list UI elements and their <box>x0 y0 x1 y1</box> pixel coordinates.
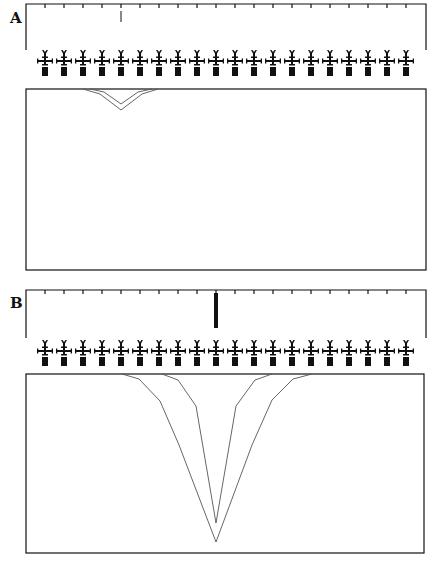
receptor-glyph-icon <box>379 340 395 366</box>
receptor-glyph-icon <box>303 340 319 366</box>
receptor-glyph-icon <box>151 340 167 366</box>
ruler-bracket <box>26 4 426 50</box>
profile-box <box>26 89 426 270</box>
receptor-glyph-icon <box>246 340 262 366</box>
receptor-glyph-icon <box>265 340 281 366</box>
receptor-glyph-icon <box>208 50 224 76</box>
receptor-glyph-icon <box>56 50 72 76</box>
receptor-glyph-icon <box>56 340 72 366</box>
receptor-glyph-icon <box>398 340 414 366</box>
profile-outer-line <box>83 89 158 110</box>
receptor-glyph-icon <box>189 340 205 366</box>
receptor-glyph-icon <box>151 50 167 76</box>
receptor-glyph-icon <box>284 50 300 76</box>
receptor-glyph-icon <box>208 340 224 366</box>
receptor-glyph-icon <box>265 50 281 76</box>
receptor-glyph-icon <box>113 50 129 76</box>
ruler-bracket <box>26 290 426 338</box>
profile-inner-line <box>90 89 152 104</box>
receptor-glyph-icon <box>303 50 319 76</box>
receptor-glyph-icon <box>37 340 53 366</box>
diagram-canvas <box>0 0 434 570</box>
receptor-glyph-icon <box>170 340 186 366</box>
receptor-glyph-icon <box>37 50 53 76</box>
receptor-glyph-icon <box>341 50 357 76</box>
receptor-glyph-icon <box>360 340 376 366</box>
receptor-glyph-icon <box>170 50 186 76</box>
receptor-glyph-icon <box>341 340 357 366</box>
receptor-glyph-icon <box>227 50 243 76</box>
receptor-glyph-icon <box>284 340 300 366</box>
receptor-glyph-icon <box>322 340 338 366</box>
receptor-glyph-icon <box>189 50 205 76</box>
receptor-glyph-icon <box>379 50 395 76</box>
receptor-glyph-icon <box>132 340 148 366</box>
profile-box <box>26 374 424 553</box>
receptor-glyph-icon <box>94 50 110 76</box>
receptor-glyph-icon <box>227 340 243 366</box>
receptor-glyph-icon <box>75 50 91 76</box>
receptor-glyph-icon <box>360 50 376 76</box>
receptor-glyph-icon <box>94 340 110 366</box>
profile-inner-line <box>162 374 272 523</box>
receptor-glyph-icon <box>398 50 414 76</box>
receptor-glyph-icon <box>322 50 338 76</box>
receptor-glyph-icon <box>246 50 262 76</box>
receptor-glyph-icon <box>132 50 148 76</box>
receptor-glyph-icon <box>113 340 129 366</box>
receptor-glyph-icon <box>75 340 91 366</box>
